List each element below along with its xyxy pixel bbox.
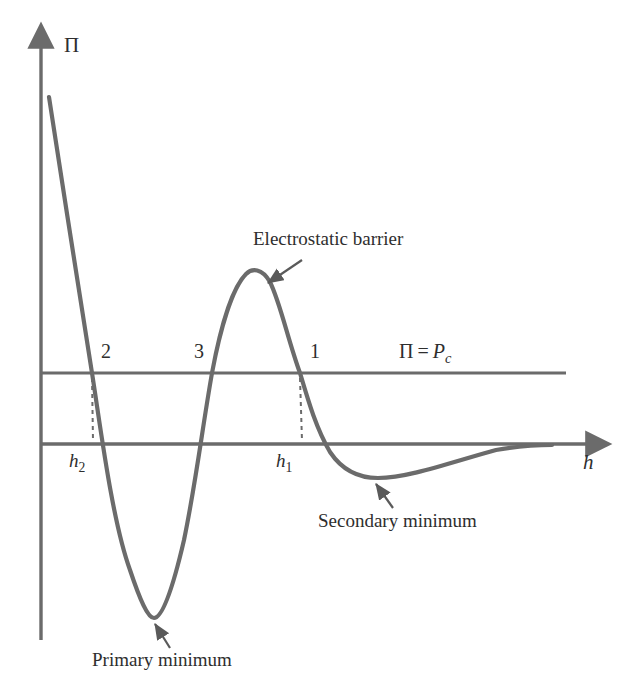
leader-secondary-minimum — [376, 484, 393, 508]
pc-label-p: P — [433, 340, 445, 362]
x-axis-label: h — [583, 452, 594, 473]
disjoining-pressure-curve — [49, 97, 552, 618]
annotation-secondary-minimum: Secondary minimum — [318, 511, 477, 530]
pc-reference-label: Π = Pc — [399, 341, 451, 365]
point-label-1: 1 — [310, 341, 320, 361]
leader-electrostatic-barrier — [268, 260, 302, 283]
point-label-2: 2 — [101, 341, 111, 361]
annotation-electrostatic-barrier: Electrostatic barrier — [253, 229, 403, 248]
tick-label-h1: h1 — [276, 451, 292, 474]
dashed-drop-h1 — [300, 378, 302, 441]
tick-label-h2-base: h — [69, 450, 79, 471]
annotation-primary-minimum: Primary minimum — [92, 650, 232, 669]
tick-label-h1-sub: 1 — [286, 460, 293, 475]
pc-label-subscript: c — [445, 350, 451, 366]
leader-primary-minimum — [155, 624, 170, 648]
pc-label-equals: = — [417, 340, 428, 362]
point-label-3: 3 — [194, 341, 204, 361]
tick-label-h2: h2 — [69, 451, 85, 474]
pc-label-pi: Π — [399, 340, 413, 362]
tick-label-h1-base: h — [276, 450, 286, 471]
tick-label-h2-sub: 2 — [79, 460, 86, 475]
y-axis-label: Π — [64, 35, 79, 56]
dashed-drop-h2 — [92, 378, 93, 441]
